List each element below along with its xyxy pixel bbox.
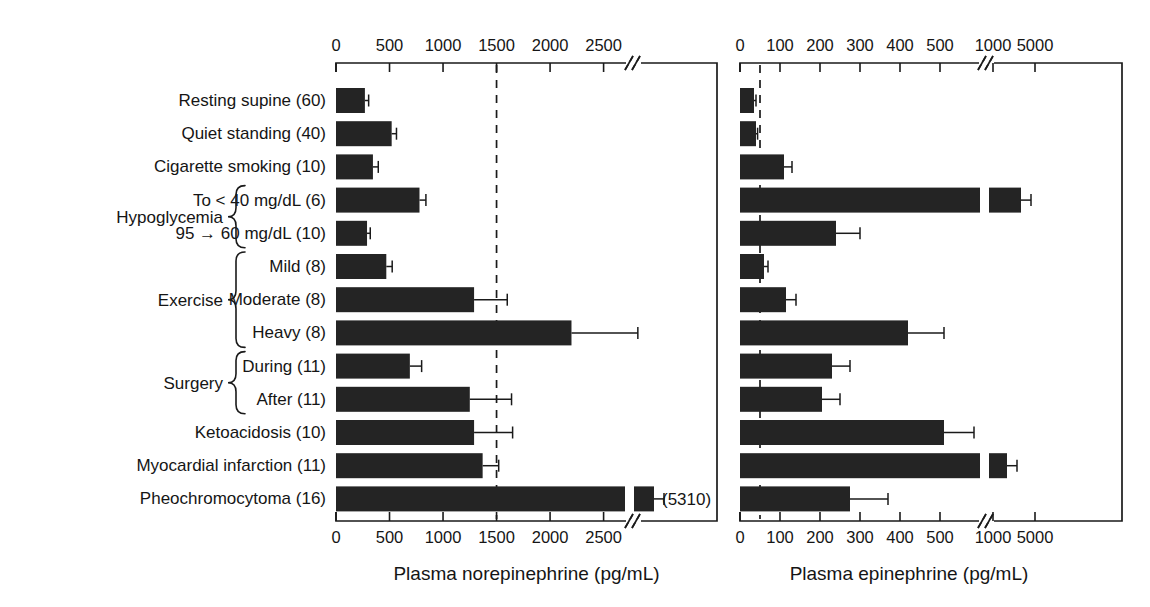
right-xaxis-ticklabel-bottom-500: 500 (926, 528, 954, 546)
category-label: Pheochromocytoma (16) (140, 489, 326, 508)
left-bar (336, 387, 470, 412)
left-xaxis-ticklabel-top-500: 500 (376, 36, 404, 54)
left-xaxis-ticklabel-bottom-2000: 2000 (532, 528, 569, 546)
right-xaxis-ticklabel-top-1000: 1000 (975, 36, 1012, 54)
right-bar (740, 387, 822, 412)
right-xaxis-ticklabel-top-5000: 5000 (1017, 36, 1054, 54)
right-xaxis-ticklabel-top-0: 0 (735, 36, 744, 54)
right-xaxis-ticklabel-top-100: 100 (766, 36, 794, 54)
left-xaxis-ticklabel-top-1000: 1000 (425, 36, 462, 54)
right-panel-frame (740, 63, 1122, 521)
left-bar (336, 121, 392, 146)
category-label: Cigarette smoking (10) (154, 157, 326, 176)
category-label: Myocardial infarction (11) (136, 456, 326, 475)
left-xaxis-ticklabel-top-2500: 2500 (585, 36, 622, 54)
left-bar (336, 154, 373, 179)
left-bar (336, 88, 365, 113)
figure-catecholamine-bar-chart: 0050050010001000150015002000200025002500… (0, 0, 1150, 607)
right-xaxis-ticklabel-top-300: 300 (846, 36, 874, 54)
left-bar (336, 287, 474, 312)
left-xaxis-ticklabel-bottom-2500: 2500 (585, 528, 622, 546)
left-axis-title: Plasma norepinephrine (pg/mL) (393, 563, 659, 584)
left-xaxis-ticklabel-top-0: 0 (331, 36, 340, 54)
right-xaxis-ticklabel-bottom-400: 400 (886, 528, 914, 546)
right-bar (740, 320, 908, 345)
right-bar (740, 486, 850, 511)
category-label: Moderate (8) (229, 290, 326, 309)
right-bar (740, 254, 764, 279)
right-xaxis-ticklabel-top-400: 400 (886, 36, 914, 54)
left-bar (336, 254, 386, 279)
group-label: Hypoglycemia (116, 208, 223, 227)
right-axis-title: Plasma epinephrine (pg/mL) (790, 563, 1029, 584)
left-xaxis-ticklabel-top-2000: 2000 (532, 36, 569, 54)
right-xaxis-ticklabel-bottom-200: 200 (806, 528, 834, 546)
left-xaxis-ticklabel-bottom-500: 500 (376, 528, 404, 546)
right-xaxis-ticklabel-top-200: 200 (806, 36, 834, 54)
category-label: After (11) (256, 390, 326, 409)
left-xaxis-ticklabel-top-1500: 1500 (478, 36, 515, 54)
right-xaxis-ticklabel-bottom-300: 300 (846, 528, 874, 546)
right-bar (740, 354, 832, 379)
left-xaxis-ticklabel-bottom-1500: 1500 (478, 528, 515, 546)
category-label: During (11) (242, 357, 326, 376)
left-bar-continued (634, 486, 654, 511)
right-xaxis-ticklabel-bottom-100: 100 (766, 528, 794, 546)
left-bar (336, 453, 483, 478)
left-xaxis-ticklabel-bottom-0: 0 (331, 528, 340, 546)
left-bar (336, 188, 419, 213)
right-bar (740, 88, 754, 113)
left-bar-value-annotation: (5310) (662, 490, 711, 509)
right-xaxis-ticklabel-bottom-5000: 5000 (1017, 528, 1054, 546)
right-bar (740, 154, 784, 179)
category-label: Heavy (8) (252, 323, 326, 342)
left-bar (336, 420, 474, 445)
group-label: Exercise (158, 291, 223, 310)
left-bar (336, 354, 410, 379)
category-label: Quiet standing (40) (181, 124, 326, 143)
category-label: Ketoacidosis (10) (195, 423, 326, 442)
right-bar (740, 188, 980, 213)
right-xaxis-ticklabel-bottom-0: 0 (735, 528, 744, 546)
left-bar (336, 486, 625, 511)
right-bar (740, 453, 980, 478)
right-bar-continued (989, 188, 1021, 213)
right-bar (740, 420, 944, 445)
right-bar (740, 121, 756, 146)
right-xaxis-ticklabel-top-500: 500 (926, 36, 954, 54)
category-label: Resting supine (60) (179, 91, 326, 110)
right-bar (740, 221, 836, 246)
group-label: Surgery (163, 374, 223, 393)
right-xaxis-ticklabel-bottom-1000: 1000 (975, 528, 1012, 546)
left-bar (336, 320, 571, 345)
right-bar (740, 287, 786, 312)
left-bar (336, 221, 367, 246)
chart-canvas: 0050050010001000150015002000200025002500… (0, 0, 1150, 607)
left-xaxis-ticklabel-bottom-1000: 1000 (425, 528, 462, 546)
category-label: Mild (8) (269, 257, 326, 276)
right-bar-continued (989, 453, 1007, 478)
